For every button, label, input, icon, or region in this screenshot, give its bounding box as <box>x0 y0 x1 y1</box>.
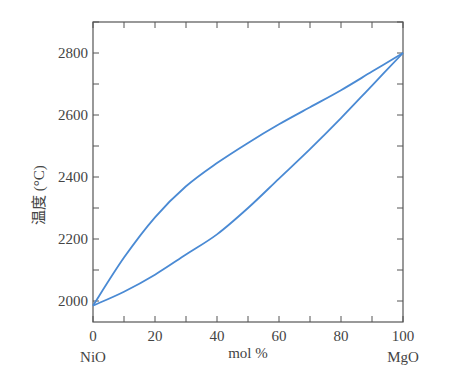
phase-diagram: 02040608010020002200240026002800 温度 (°C)… <box>0 0 449 377</box>
y-tick-label: 2200 <box>58 231 88 247</box>
y-tick-label: 2000 <box>58 293 88 309</box>
x-axis-title: mol % <box>228 345 268 361</box>
x-tick-label: 100 <box>392 328 415 344</box>
x-tick-label: 40 <box>210 328 225 344</box>
y-tick-label: 2400 <box>58 169 88 185</box>
axis-labels: 02040608010020002200240026002800 <box>58 45 414 344</box>
y-axis-title: 温度 (°C) <box>31 165 48 225</box>
plot-frame <box>93 22 403 322</box>
data-curves <box>93 53 403 306</box>
liquidus-curve <box>93 53 403 306</box>
y-tick-label: 2600 <box>58 107 88 123</box>
y-tick-label: 2800 <box>58 45 88 61</box>
axis-ticks <box>93 22 403 322</box>
x-tick-label: 60 <box>272 328 287 344</box>
x-tick-label: 0 <box>89 328 97 344</box>
x-left-component-label: NiO <box>80 349 106 365</box>
x-tick-label: 80 <box>334 328 349 344</box>
x-right-component-label: MgO <box>387 349 419 365</box>
x-tick-label: 20 <box>148 328 163 344</box>
plot-border <box>93 22 403 322</box>
solidus-curve <box>93 53 403 306</box>
